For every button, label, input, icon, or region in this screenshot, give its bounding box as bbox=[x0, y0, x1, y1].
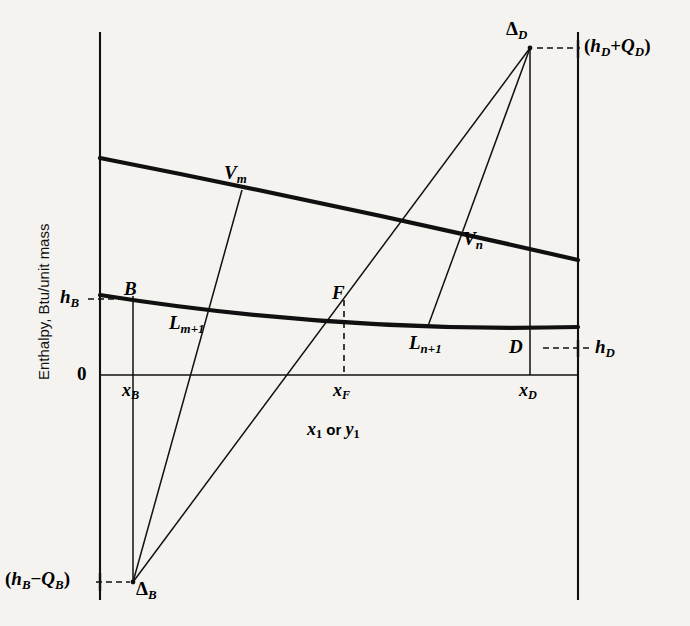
deltaD-value-h: h bbox=[590, 35, 601, 56]
deltaD-value-q: Q bbox=[621, 35, 635, 56]
Lm1-subscript: m+1 bbox=[181, 321, 205, 336]
curve-label-Vn: Vn bbox=[463, 228, 483, 253]
xF-symbol: x bbox=[333, 380, 342, 400]
point-marker-deltaB bbox=[131, 580, 136, 585]
xF-subscript: F bbox=[342, 388, 350, 402]
hD-symbol: h bbox=[595, 336, 606, 357]
Vn-subscript: n bbox=[476, 237, 483, 252]
deltaD-value-q-sub: D bbox=[635, 44, 644, 59]
deltaB-delta-symbol: Δ bbox=[136, 578, 148, 599]
Ln1-subscript: n+1 bbox=[421, 341, 442, 356]
deltaD-value-close: ) bbox=[644, 35, 650, 56]
deltaB-value-minus: − bbox=[31, 568, 42, 589]
deltaD-delta-symbol: Δ bbox=[506, 18, 518, 39]
Vm-subscript: m bbox=[237, 171, 247, 186]
x-axis-or-word: or bbox=[322, 421, 345, 438]
curve-label-Vm: Vm bbox=[224, 162, 247, 187]
Lm1-symbol: L bbox=[169, 312, 181, 333]
composition-label-xD: xD bbox=[519, 380, 537, 403]
Ln1-symbol: L bbox=[409, 332, 421, 353]
point-label-deltaB: ΔB bbox=[136, 578, 157, 603]
point-label-deltaD: ΔD bbox=[506, 18, 527, 43]
enthalpy-concentration-figure bbox=[0, 0, 690, 626]
point-marker-deltaD bbox=[528, 46, 533, 51]
enthalpy-label-deltaD-value: (hD+QD) bbox=[584, 35, 650, 60]
zero-tick-label: 0 bbox=[77, 363, 87, 385]
curve-label-Lm1: Lm+1 bbox=[169, 312, 204, 337]
xD-subscript: D bbox=[528, 388, 537, 402]
enthalpy-label-hB: hB bbox=[60, 286, 79, 311]
xB-symbol: x bbox=[122, 380, 131, 400]
Vm-symbol: V bbox=[224, 162, 237, 183]
deltaB-value-close: ) bbox=[64, 568, 70, 589]
x-axis-y-subscript: 1 bbox=[353, 427, 359, 441]
hB-subscript: B bbox=[71, 295, 80, 310]
deltaB-value-h: h bbox=[11, 568, 22, 589]
curve-label-Ln1: Ln+1 bbox=[409, 332, 442, 357]
xD-symbol: x bbox=[519, 380, 528, 400]
y-axis-label: Enthalpy, Btu/unit mass bbox=[35, 224, 52, 380]
x-axis-x-symbol: x bbox=[307, 419, 316, 439]
point-label-D: D bbox=[509, 336, 523, 358]
deltaD-value-plus: + bbox=[610, 35, 621, 56]
xB-subscript: B bbox=[131, 388, 139, 402]
composition-label-xF: xF bbox=[333, 380, 350, 403]
Vn-symbol: V bbox=[463, 228, 476, 249]
x-axis-label: x1 or y1 bbox=[307, 419, 360, 442]
figure-background bbox=[0, 0, 690, 626]
point-label-B: B bbox=[124, 278, 137, 300]
enthalpy-label-deltaB-value: (hB−QB) bbox=[5, 568, 70, 593]
hB-symbol: h bbox=[60, 286, 71, 307]
deltaB-value-h-sub: B bbox=[22, 577, 31, 592]
composition-label-xB: xB bbox=[122, 380, 139, 403]
deltaD-subscript: D bbox=[518, 27, 527, 42]
hD-subscript: D bbox=[606, 345, 615, 360]
deltaB-subscript: B bbox=[148, 587, 157, 602]
enthalpy-label-hD: hD bbox=[595, 336, 615, 361]
deltaB-value-q: Q bbox=[41, 568, 55, 589]
deltaD-value-h-sub: D bbox=[601, 44, 610, 59]
point-label-F: F bbox=[332, 282, 345, 304]
deltaB-value-q-sub: B bbox=[55, 577, 64, 592]
